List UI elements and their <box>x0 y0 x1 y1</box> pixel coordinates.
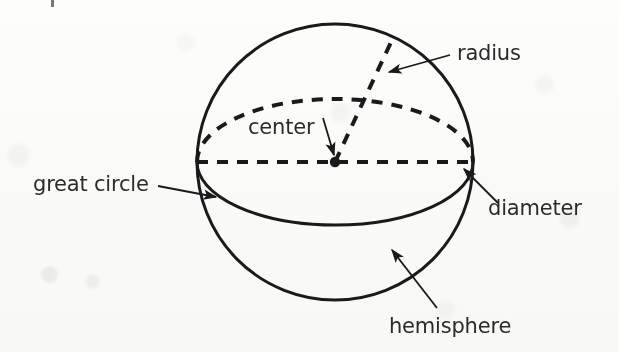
scan-artifact-speck <box>51 0 54 7</box>
label-hemisphere: hemisphere <box>389 314 511 338</box>
label-diameter: diameter <box>488 196 582 220</box>
label-great-circle: great circle <box>33 172 149 196</box>
radius-dashed-line <box>335 40 392 162</box>
label-radius: radius <box>457 41 521 65</box>
sphere-diagram-canvas: radius center great circle diameter hemi… <box>0 0 619 352</box>
radius-leader-line <box>389 55 450 72</box>
center-point-dot <box>330 157 340 167</box>
hemisphere-leader-line <box>392 250 437 308</box>
great-circle-back-arc-dashed <box>197 99 473 162</box>
great-circle-front-arc-solid <box>197 162 473 225</box>
center-leader-line <box>323 118 334 155</box>
sphere-diagram-figure: radius center great circle diameter hemi… <box>0 0 619 352</box>
label-center: center <box>248 115 315 139</box>
